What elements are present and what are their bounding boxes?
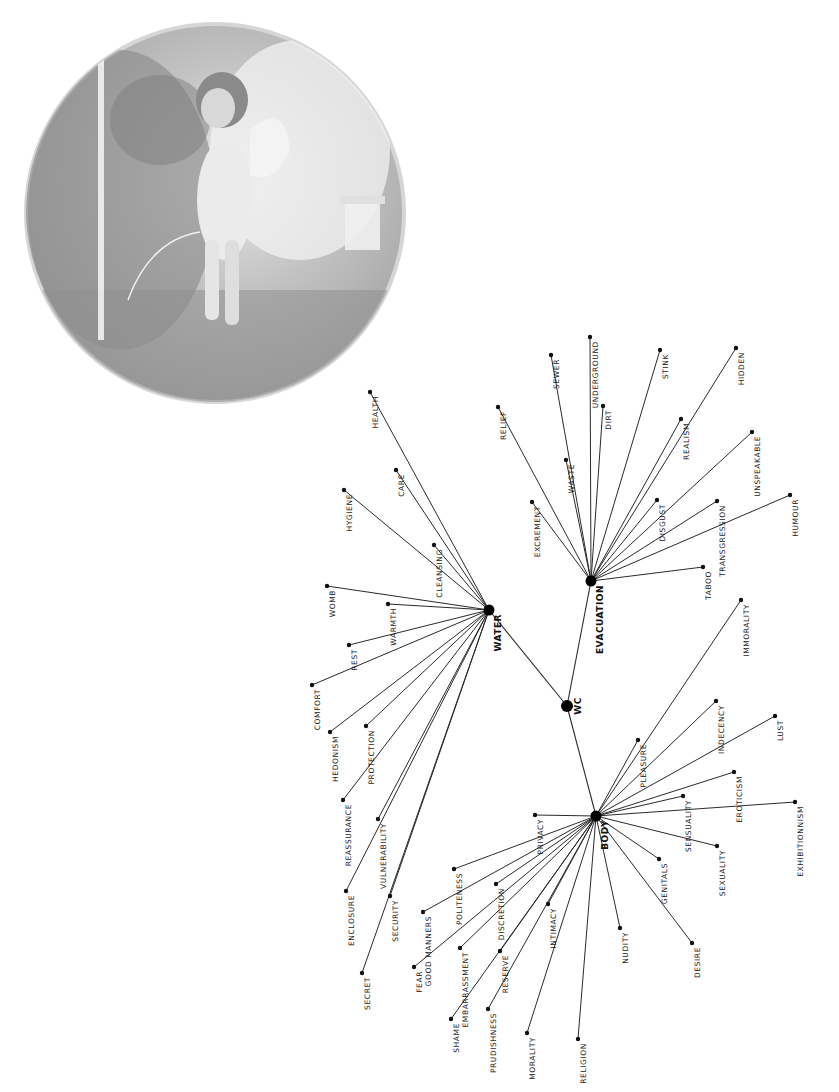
- leaf-label: CLEANSING: [435, 549, 444, 598]
- leaf-node: WARMTH: [386, 602, 398, 646]
- leaf-node: EMBARRASSMENT: [458, 946, 470, 1028]
- leaf-label: RELIGION: [579, 1043, 588, 1084]
- leaf-dot: [734, 346, 738, 350]
- leaf-node: REASSURANCE: [341, 798, 353, 867]
- leaf-label: GOOD MANNERS: [424, 916, 433, 987]
- leaf-dot: [788, 493, 792, 497]
- root-node-wc: WC: [561, 697, 583, 715]
- leaf-dot: [549, 353, 553, 357]
- edge-body-leaf: [454, 816, 596, 869]
- edge-water-leaf: [370, 392, 489, 610]
- leaf-label: DIRT: [604, 410, 613, 430]
- leaf-label: EROTICISM: [735, 776, 744, 823]
- leaf-node: SENSUALITY: [681, 794, 693, 852]
- edge-body-leaf: [596, 816, 692, 943]
- leaf-node: INDECENCY: [714, 699, 726, 754]
- leaf-dot: [715, 844, 719, 848]
- leaf-dot: [530, 500, 534, 504]
- leaf-node: VULNERABILITY: [376, 817, 388, 889]
- edge-water-leaf: [312, 610, 489, 685]
- leaf-dot: [715, 499, 719, 503]
- leaf-label: POLITENESS: [455, 873, 464, 925]
- leaf-node: RELIEF: [496, 405, 508, 440]
- leaf-dot: [368, 390, 372, 394]
- leaf-label: VULNERABILITY: [379, 823, 388, 889]
- leaf-node: IMMORALITY: [739, 598, 751, 657]
- leaf-node: NUDITY: [618, 926, 630, 964]
- leaf-node: SECURITY: [388, 894, 400, 942]
- hub-node-evacuation: EVACUATION: [586, 576, 606, 655]
- leaf-dot: [576, 1037, 580, 1041]
- leaf-label: PRIVACY: [536, 819, 545, 854]
- root-label: WC: [573, 697, 583, 715]
- leaf-dot: [681, 794, 685, 798]
- leaf-dot: [773, 714, 777, 718]
- hub-dot: [586, 576, 597, 587]
- leaf-dot: [588, 335, 592, 339]
- leaf-dot: [376, 817, 380, 821]
- leaf-dot: [546, 902, 550, 906]
- leaf-node: TABOO: [701, 565, 713, 601]
- leaf-label: HEDONISM: [331, 736, 340, 782]
- leaf-node: UNSPEAKABLE: [750, 430, 762, 497]
- leaf-dot: [452, 867, 456, 871]
- leaf-node: PRUDISHNESS: [486, 1007, 498, 1073]
- leaf-dot: [793, 800, 797, 804]
- leaf-node: SEWER: [549, 353, 561, 389]
- leaf-node: ENCLOSURE: [344, 889, 356, 946]
- edge-wc-body: [567, 706, 596, 816]
- leaf-node: CLEANSING: [432, 543, 444, 598]
- leaf-label: EXHIBITIONNISM: [796, 806, 805, 877]
- leaf-label: GENITALS: [660, 863, 669, 904]
- leaf-label: NUDITY: [621, 932, 630, 964]
- edge-evacuation-leaf: [591, 419, 681, 581]
- leaf-node: HEDONISM: [328, 730, 340, 782]
- leaf-dot: [655, 498, 659, 502]
- leaf-label: SEXUALITY: [718, 850, 727, 896]
- leaf-dot: [364, 724, 368, 728]
- leaf-node: DESIRE: [690, 941, 702, 978]
- hub-dot: [484, 605, 495, 616]
- leaf-label: CARE: [397, 474, 406, 497]
- leaf-dot: [525, 1031, 529, 1035]
- leaf-node: DISCRETION: [494, 882, 506, 940]
- leaf-label: HYGIENE: [345, 494, 354, 532]
- edge-evacuation-leaf: [591, 501, 717, 581]
- leaf-dot: [601, 404, 605, 408]
- leaf-label: PLEASURE: [639, 744, 648, 788]
- leaf-label: IMMORALITY: [742, 604, 751, 657]
- leaf-dot: [701, 565, 705, 569]
- leaf-node: PROTECTION: [364, 724, 376, 785]
- leaf-node: EXCREMENT: [530, 500, 542, 558]
- leaf-label: UNDERGROUND: [591, 341, 600, 408]
- leaf-label: REASSURANCE: [344, 804, 353, 866]
- leaf-label: DISGUST: [658, 504, 667, 542]
- leaf-dot: [498, 949, 502, 953]
- leaf-dot: [360, 971, 364, 975]
- leaf-node: POLITENESS: [452, 867, 464, 925]
- edge-evacuation-leaf: [591, 406, 603, 581]
- leaf-label: MORALITY: [528, 1037, 537, 1080]
- leaf-dot: [432, 543, 436, 547]
- leaf-label: WARMTH: [389, 608, 398, 646]
- leaf-dot: [496, 405, 500, 409]
- leaf-node: SECRET: [360, 971, 372, 1010]
- leaf-label: HUMOUR: [791, 499, 800, 537]
- leaf-label: EMBARRASSMENT: [461, 952, 470, 1027]
- edge-evacuation-leaf: [591, 432, 752, 581]
- edge-water-leaf: [366, 610, 489, 726]
- leaf-node: MORALITY: [525, 1031, 537, 1080]
- edge-body-leaf: [460, 816, 596, 948]
- leaf-dot: [690, 941, 694, 945]
- leaf-dot: [658, 348, 662, 352]
- leaf-label: DESIRE: [693, 947, 702, 978]
- edge-water-leaf: [388, 604, 489, 610]
- leaf-node: EXHIBITIONNISM: [793, 800, 805, 877]
- leaf-dot: [421, 910, 425, 914]
- leaf-node: PLEASURE: [636, 738, 648, 788]
- leaf-label: SECRET: [363, 977, 372, 1010]
- leaf-label: RELIEF: [499, 411, 508, 440]
- leaf-label: HEALTH: [371, 396, 380, 428]
- leaf-dot: [750, 430, 754, 434]
- leaf-dot: [739, 598, 743, 602]
